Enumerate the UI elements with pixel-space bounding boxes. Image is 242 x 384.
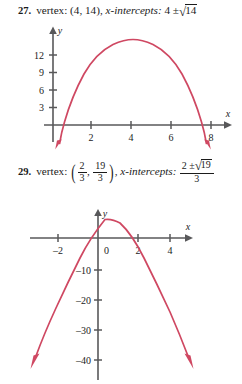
xtick-label-29-3: 4 <box>168 245 173 256</box>
problem-29-text: vertex: (23, 193), x-intercepts: 2 ±√193 <box>31 160 214 185</box>
parabola-curve-29 <box>31 219 194 369</box>
ytick-label-27-3: 12 <box>34 50 44 61</box>
ticks-27 <box>49 55 211 129</box>
radical-expression-29: √19 <box>195 160 212 174</box>
x-axis-label-27: x <box>225 108 231 119</box>
radicand-27: 14 <box>185 4 197 16</box>
y-axis-label-29: y <box>102 208 108 219</box>
paren-open-29: ( <box>71 164 75 181</box>
axes-27 <box>44 27 232 143</box>
vertex-x-fraction-29: 23 <box>78 161 87 183</box>
x-intercepts-label-29: x-intercepts: <box>120 165 176 177</box>
tick-labels-29: –2 0 2 4 –10 –20 –30 –40 <box>52 245 173 366</box>
x-axis-arrow-27 <box>224 121 232 129</box>
vertex-y-denominator-29: 3 <box>93 172 107 184</box>
problem-number-27: 27. <box>0 6 31 17</box>
xtick-label-29-0: –2 <box>52 245 63 256</box>
xtick-label-29-1: 0 <box>104 245 109 256</box>
axis-titles-27: x y <box>57 25 231 119</box>
x-intercepts-label-27: x-intercepts: <box>106 4 162 16</box>
vertex-x-numerator-29: 2 <box>78 161 87 172</box>
ytick-label-27-0: 3 <box>39 102 44 113</box>
vertex-value-27: (4, 14), <box>70 4 103 16</box>
ytick-label-29-0: –10 <box>75 265 91 276</box>
ytick-label-29-1: –20 <box>75 295 91 306</box>
xtick-label-27-0: 2 <box>89 132 94 143</box>
y-axis-label-27: y <box>57 25 63 36</box>
xtick-label-27-3: 8 <box>209 132 214 143</box>
y-axis-arrow-29 <box>94 209 102 216</box>
vertex-comma-29: , <box>87 165 90 177</box>
graph-problem-27: 2 4 6 8 3 6 9 12 x y <box>0 22 242 152</box>
vertex-label-29: vertex: <box>36 165 67 177</box>
axes-29 <box>30 209 193 380</box>
after-paren-comma-29: , <box>115 165 118 177</box>
ytick-label-27-1: 6 <box>39 85 44 96</box>
xtick-label-27-1: 4 <box>129 132 134 143</box>
intercepts-numerator-29: 2 ±√19 <box>180 160 214 174</box>
vertex-label-27: vertex: <box>36 4 67 16</box>
x-axis-label-29: x <box>185 221 191 232</box>
problem-29-answer-line: 29.vertex: (23, 193), x-intercepts: 2 ±√… <box>0 160 242 185</box>
y-axis-arrow-27 <box>49 27 57 35</box>
ytick-label-27-2: 9 <box>39 67 44 78</box>
curve-arrow-left-29 <box>31 354 40 370</box>
radicand-29: 19 <box>201 159 212 171</box>
intercepts-num-lead-29: 2 ± <box>182 160 195 171</box>
x-axis-arrow-29 <box>185 234 193 242</box>
ticks-29 <box>58 234 170 360</box>
intercepts-lead-27: 4 ± <box>164 4 179 16</box>
curve-arrow-left-27 <box>55 140 62 150</box>
problem-number-29: 29. <box>0 167 31 178</box>
intercepts-denominator-29: 3 <box>180 173 214 185</box>
vertex-y-fraction-29: 193 <box>93 161 107 183</box>
xtick-label-27-2: 6 <box>169 132 174 143</box>
radical-expression-27: √14 <box>179 5 197 18</box>
vertex-y-numerator-29: 19 <box>93 161 107 172</box>
ytick-label-29-3: –40 <box>75 355 91 366</box>
curve-arrow-right-29 <box>185 354 194 370</box>
ytick-label-29-2: –30 <box>75 325 91 336</box>
vertex-x-denominator-29: 3 <box>78 172 87 184</box>
paren-close-29: ) <box>109 164 113 181</box>
problem-27-answer-line: 27.vertex: (4, 14), x-intercepts: 4 ±√14 <box>0 5 242 18</box>
tick-labels-27: 2 4 6 8 3 6 9 12 <box>34 50 214 144</box>
graph-problem-29: –2 0 2 4 –10 –20 –30 –40 x y <box>0 190 242 384</box>
intercepts-fraction-29: 2 ±√193 <box>180 160 214 185</box>
problem-27-text: vertex: (4, 14), x-intercepts: 4 ±√14 <box>31 5 197 18</box>
